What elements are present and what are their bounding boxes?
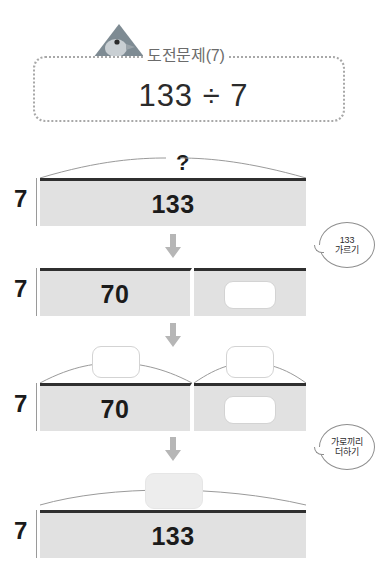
bar-answer: 133 xyxy=(40,510,306,558)
input-slot-remainder-2[interactable] xyxy=(224,396,276,424)
bar-split-left: 70 xyxy=(40,268,192,316)
side-brace-1 xyxy=(36,178,37,226)
bubble-add-across-line1: 가로끼리 xyxy=(331,437,362,447)
bar-split-left-value: 70 xyxy=(40,279,190,308)
bar-partial-right xyxy=(194,383,306,431)
bubble-decompose-line1: 133 xyxy=(340,235,354,245)
side-brace-2 xyxy=(36,268,37,316)
divisor-label-1: 7 xyxy=(14,185,27,213)
bar-partial-left: 70 xyxy=(40,383,192,431)
divisor-label-3: 7 xyxy=(14,390,27,418)
bar-partial-left-value: 70 xyxy=(40,394,190,423)
page-title: 도전문제(7) xyxy=(143,42,228,66)
side-brace-4 xyxy=(36,510,37,558)
side-brace-3 xyxy=(36,383,37,431)
divisor-label-4: 7 xyxy=(14,517,27,545)
input-slot-final-quotient[interactable] xyxy=(145,473,203,509)
down-arrow-3 xyxy=(165,437,181,461)
bar-total: 133 xyxy=(40,178,306,226)
input-slot-partial-quotient-2[interactable] xyxy=(226,346,274,378)
divisor-label-2: 7 xyxy=(14,275,27,303)
bubble-decompose: 133 가르기 xyxy=(319,222,375,268)
problem-expression: 133 ÷ 7 xyxy=(0,78,387,114)
bubble-add-across-line2: 더하기 xyxy=(335,447,358,457)
bubble-decompose-line2: 가르기 xyxy=(335,245,358,255)
down-arrow-1 xyxy=(165,234,181,258)
bubble-tail xyxy=(314,245,324,253)
down-arrow-2 xyxy=(165,323,181,347)
bracket-total xyxy=(40,158,306,180)
input-slot-remainder[interactable] xyxy=(224,281,276,309)
input-slot-partial-quotient-1[interactable] xyxy=(92,346,140,378)
bar-total-value: 133 xyxy=(40,189,306,218)
bubble-tail xyxy=(314,447,324,455)
bar-split-right xyxy=(194,268,306,316)
bubble-add-across: 가로끼리 더하기 xyxy=(319,424,375,470)
bar-answer-value: 133 xyxy=(40,521,306,550)
